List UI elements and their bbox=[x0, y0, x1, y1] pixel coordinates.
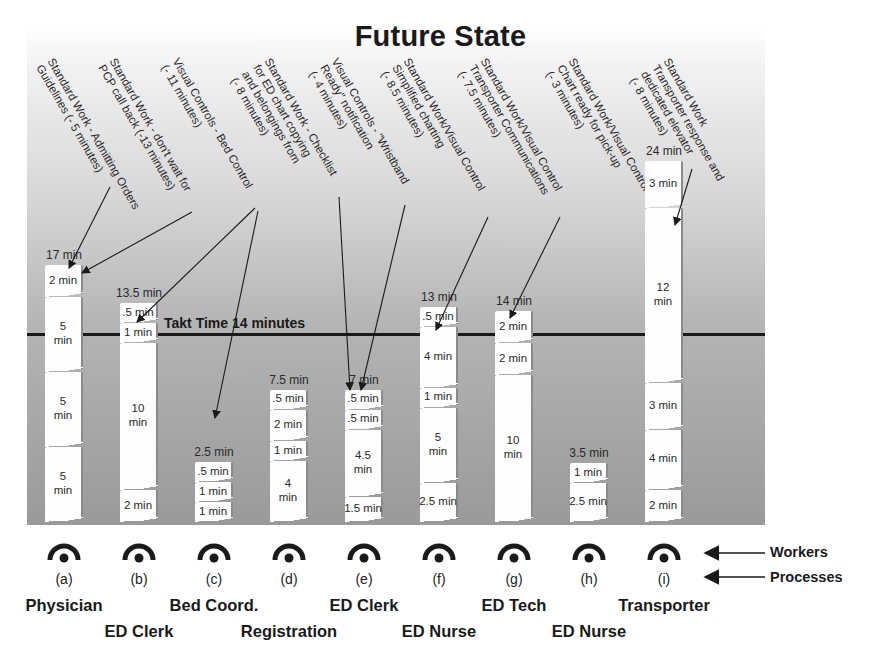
process-letter-f: (f) bbox=[424, 571, 454, 587]
task-segment: 2.5 min bbox=[420, 483, 458, 519]
task-segment: 2 min bbox=[495, 311, 533, 340]
process-total-d: 7.5 min bbox=[254, 373, 324, 387]
worker-icon bbox=[497, 540, 531, 564]
task-segment: 5 min bbox=[45, 372, 83, 444]
task-segment: 2 min bbox=[270, 410, 308, 439]
task-segment: 10 min bbox=[120, 343, 158, 487]
worker-icon bbox=[647, 540, 681, 564]
process-role-c: Bed Coord. bbox=[170, 596, 259, 615]
task-segment: 3 min bbox=[645, 383, 683, 426]
process-total-e: 7 min bbox=[329, 373, 399, 387]
task-segment: 4.5 min bbox=[345, 430, 383, 495]
page-title: Future State bbox=[0, 20, 881, 53]
process-role-f: ED Nurse bbox=[402, 622, 476, 641]
worker-icon bbox=[422, 540, 456, 564]
process-stack-g: 2 min2 min10 min bbox=[495, 311, 533, 519]
task-segment: 12 min bbox=[645, 208, 683, 381]
task-segment: .5 min bbox=[120, 303, 158, 320]
worker-icon bbox=[572, 540, 606, 564]
process-total-c: 2.5 min bbox=[179, 445, 249, 459]
process-total-b: 13.5 min bbox=[104, 286, 174, 300]
task-segment: .5 min bbox=[345, 410, 383, 427]
task-segment: .5 min bbox=[420, 307, 458, 324]
process-letter-g: (g) bbox=[499, 571, 529, 587]
process-total-f: 13 min bbox=[404, 290, 474, 304]
task-segment: 2 min bbox=[495, 343, 533, 372]
task-segment: 2.5 min bbox=[570, 483, 608, 519]
process-letter-b: (b) bbox=[124, 571, 154, 587]
process-letter-h: (h) bbox=[574, 571, 604, 587]
worker-icon bbox=[272, 540, 306, 564]
worker-icon bbox=[47, 540, 81, 564]
task-segment: .5 min bbox=[270, 390, 308, 407]
process-stack-d: .5 min2 min1 min4 min bbox=[270, 390, 308, 519]
process-stack-c: .5 min1 min1 min bbox=[195, 462, 233, 519]
task-segment: 2 min bbox=[645, 490, 683, 519]
legend-processes: Processes bbox=[770, 569, 843, 585]
legend-workers: Workers bbox=[770, 544, 828, 560]
task-segment: 1 min bbox=[195, 502, 233, 519]
process-letter-a: (a) bbox=[49, 571, 79, 587]
task-segment: 2 min bbox=[45, 265, 83, 294]
process-total-a: 17 min bbox=[29, 248, 99, 262]
process-total-g: 14 min bbox=[479, 294, 549, 308]
task-segment: 1 min bbox=[420, 388, 458, 405]
takt-time-label: Takt Time 14 minutes bbox=[164, 315, 305, 331]
worker-icon bbox=[197, 540, 231, 564]
task-segment: 1 min bbox=[270, 441, 308, 458]
task-segment: 2 min bbox=[120, 490, 158, 519]
task-segment: 5 min bbox=[420, 408, 458, 480]
task-segment: 5 min bbox=[45, 447, 83, 519]
process-stack-i: 3 min12 min3 min4 min2 min bbox=[645, 161, 683, 519]
task-segment: 4 min bbox=[420, 327, 458, 385]
process-stack-b: .5 min1 min10 min2 min bbox=[120, 303, 158, 519]
worker-icon bbox=[122, 540, 156, 564]
task-segment: 10 min bbox=[495, 375, 533, 519]
task-segment: 5 min bbox=[45, 297, 83, 369]
process-role-g: ED Tech bbox=[482, 596, 547, 615]
task-segment: 3 min bbox=[645, 161, 683, 204]
process-role-d: Registration bbox=[241, 622, 337, 641]
process-role-i: Transporter bbox=[618, 596, 710, 615]
task-segment: .5 min bbox=[345, 390, 383, 407]
worker-icon bbox=[347, 540, 381, 564]
process-letter-i: (i) bbox=[649, 571, 679, 587]
process-stack-e: .5 min.5 min4.5 min1.5 min bbox=[345, 390, 383, 519]
process-role-b: ED Clerk bbox=[105, 622, 174, 641]
task-segment: .5 min bbox=[195, 462, 233, 479]
task-segment: 1 min bbox=[195, 482, 233, 499]
process-role-h: ED Nurse bbox=[552, 622, 626, 641]
task-segment: 4 min bbox=[645, 430, 683, 488]
process-letter-e: (e) bbox=[349, 571, 379, 587]
task-segment: 1.5 min bbox=[345, 497, 383, 519]
process-stack-a: 2 min5 min5 min5 min bbox=[45, 265, 83, 519]
process-total-h: 3.5 min bbox=[554, 446, 624, 460]
process-role-a: Physician bbox=[25, 596, 102, 615]
task-segment: 4 min bbox=[270, 461, 308, 519]
process-letter-d: (d) bbox=[274, 571, 304, 587]
task-segment: 1 min bbox=[570, 463, 608, 480]
process-total-i: 24 min bbox=[629, 144, 699, 158]
process-letter-c: (c) bbox=[199, 571, 229, 587]
task-segment: 1 min bbox=[120, 323, 158, 340]
process-stack-f: .5 min4 min1 min5 min2.5 min bbox=[420, 307, 458, 519]
process-role-e: ED Clerk bbox=[330, 596, 399, 615]
process-stack-h: 1 min2.5 min bbox=[570, 463, 608, 519]
